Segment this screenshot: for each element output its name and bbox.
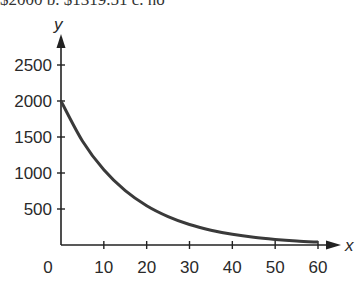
x-tick-label: 50: [266, 258, 285, 277]
tick-labels: yx01020304050605001000150020002500: [14, 15, 354, 277]
y-axis-label: y: [53, 15, 64, 34]
y-tick-label: 1500: [14, 128, 52, 147]
x-tick-label: 40: [223, 258, 242, 277]
x-axis-label: x: [344, 236, 354, 255]
y-tick-label: 1000: [14, 164, 52, 183]
x-tick-label: 20: [137, 258, 156, 277]
decay-curve: [61, 101, 318, 242]
decay-chart: yx01020304050605001000150020002500: [0, 0, 356, 287]
y-tick-label: 2000: [14, 92, 52, 111]
ticks: [57, 65, 318, 249]
x-tick-label: 0: [43, 258, 52, 277]
x-tick-label: 30: [180, 258, 199, 277]
x-tick-label: 60: [309, 258, 328, 277]
y-axis-arrow-icon: [57, 34, 66, 48]
x-tick-label: 10: [94, 258, 113, 277]
axes: [57, 34, 342, 250]
y-tick-label: 2500: [14, 56, 52, 75]
y-tick-label: 500: [24, 200, 52, 219]
x-axis-arrow-icon: [326, 241, 341, 250]
